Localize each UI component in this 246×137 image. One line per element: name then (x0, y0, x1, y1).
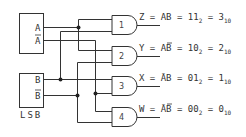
label-a-bar: A (35, 36, 41, 46)
gate-number-4: 4 (119, 113, 124, 122)
junction-dot-b (59, 78, 63, 82)
wire-b-to-gate1 (61, 32, 113, 80)
svg-text:W = ĀB = 002 = 010: W = ĀB = 002 = 010 (139, 104, 232, 116)
lsb-label: LSB (20, 110, 42, 120)
and-gate-2 (112, 47, 137, 66)
gate-number-3: 3 (119, 82, 124, 91)
label-b-bar: B (35, 91, 40, 101)
svg-text:X = ĀB = 012 = 110: X = ĀB = 012 = 110 (139, 73, 232, 85)
junction-dot-bbar (76, 94, 80, 98)
junction-dot-abar (94, 92, 98, 96)
equation-y: Y = AB = 102 = 210 (139, 43, 232, 55)
label-a: A (35, 23, 41, 33)
decoder-diagram: A A B B LSB 1 2 3 4 Z = AB = 112 = 310 Y… (0, 0, 246, 137)
wire-bbar-to-gate4 (78, 96, 113, 123)
equation-z: Z = AB = 112 = 310 (139, 12, 232, 24)
equation-x: X = ĀB = 012 = 110 (139, 73, 232, 85)
wire-a-to-gate1 (79, 20, 113, 28)
label-b: B (35, 75, 40, 85)
and-gate-3 (112, 77, 137, 96)
equation-w: W = ĀB = 002 = 010 (139, 104, 232, 116)
and-gate-4 (112, 108, 137, 127)
gate-number-1: 1 (119, 21, 124, 30)
svg-text:Z = AB = 112 = 310: Z = AB = 112 = 310 (139, 12, 232, 24)
svg-text:Y = AB = 102 = 210: Y = AB = 102 = 210 (139, 43, 232, 55)
gate-number-2: 2 (119, 52, 124, 61)
junction-dot-a (77, 26, 81, 30)
and-gate-1 (112, 16, 137, 35)
input-box-a (20, 14, 44, 54)
